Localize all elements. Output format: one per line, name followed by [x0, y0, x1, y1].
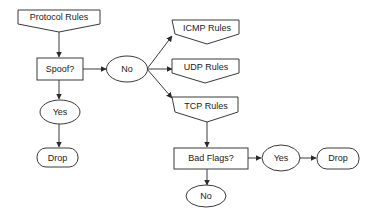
- node-label: No: [200, 191, 212, 201]
- node-spoof: Spoof?: [37, 58, 83, 80]
- node-udp-rules: UDP Rules: [172, 59, 239, 83]
- node-label: Drop: [48, 153, 68, 163]
- node-tcp-rules: TCP Rules: [172, 97, 238, 122]
- node-bad-flags: Bad Flags?: [174, 148, 248, 169]
- node-label: Yes: [274, 153, 289, 163]
- flowchart: Protocol Rules Spoof? No Yes Drop ICMP R…: [0, 0, 378, 221]
- node-label: Yes: [53, 107, 68, 117]
- node-icmp-rules: ICMP Rules: [172, 20, 239, 44]
- node-label: No: [121, 64, 133, 74]
- node-flags-no: No: [186, 185, 226, 207]
- edge-no-to-tcp: [147, 69, 172, 98]
- node-spoof-yes: Yes: [40, 100, 80, 124]
- node-protocol-rules: Protocol Rules: [18, 10, 100, 32]
- node-drop-left: Drop: [37, 148, 78, 167]
- node-flags-yes: Yes: [262, 145, 300, 171]
- node-drop-right: Drop: [317, 148, 359, 169]
- edge-no-to-icmp: [147, 36, 172, 69]
- node-spoof-no: No: [107, 56, 148, 82]
- node-label: Protocol Rules: [30, 12, 89, 22]
- node-label: UDP Rules: [184, 62, 229, 72]
- node-label: TCP Rules: [184, 101, 228, 111]
- node-label: Spoof?: [46, 64, 75, 74]
- node-label: ICMP Rules: [183, 23, 231, 33]
- node-label: Bad Flags?: [188, 153, 234, 163]
- node-label: Drop: [328, 153, 348, 163]
